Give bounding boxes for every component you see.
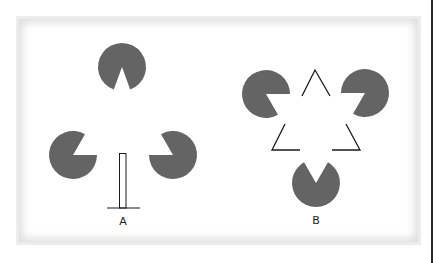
- panel-a: A: [49, 43, 197, 228]
- pacman-left: [49, 131, 97, 179]
- pacman-left: [242, 70, 290, 118]
- pacman-bottom: [292, 162, 340, 207]
- triangle-corner-bottom-right: [332, 124, 360, 150]
- pacman-right: [341, 69, 389, 117]
- triangle-corner-top: [302, 70, 330, 96]
- pacman-right: [149, 131, 197, 179]
- stand-post: [120, 154, 127, 209]
- panel-label-b: B: [312, 214, 320, 227]
- kanizsa-figure: A B: [0, 0, 436, 263]
- panel-b: B: [242, 69, 389, 227]
- pacman-top: [98, 43, 146, 90]
- triangle-corner-bottom-left: [272, 124, 300, 150]
- panel-label-a: A: [119, 215, 127, 228]
